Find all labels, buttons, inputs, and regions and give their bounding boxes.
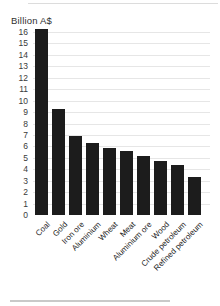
bottom-scan-rule xyxy=(10,300,170,302)
y-tick-label: 12 xyxy=(6,73,28,83)
bar-label: Coal xyxy=(34,220,52,238)
y-tick-label: 0 xyxy=(6,210,28,220)
grid-line xyxy=(33,66,210,67)
grid-line xyxy=(33,89,210,90)
y-tick-label: 2 xyxy=(6,187,28,197)
y-tick-label: 13 xyxy=(6,61,28,71)
y-tick-label: 14 xyxy=(6,50,28,60)
bar xyxy=(69,136,82,215)
y-tick-label: 11 xyxy=(6,84,28,94)
bar xyxy=(154,161,167,215)
grid-line xyxy=(33,55,210,56)
y-tick-label: 15 xyxy=(6,38,28,48)
y-tick-label: 7 xyxy=(6,130,28,140)
bar xyxy=(103,148,116,215)
bar xyxy=(52,109,65,215)
grid-line xyxy=(33,32,210,33)
y-tick-label: 4 xyxy=(6,164,28,174)
bar xyxy=(120,151,133,215)
bar xyxy=(35,29,48,215)
grid-line xyxy=(33,43,210,44)
grid-line xyxy=(33,101,210,102)
y-tick-label: 10 xyxy=(6,96,28,106)
y-tick-label: 5 xyxy=(6,153,28,163)
bar xyxy=(171,165,184,215)
y-tick-label: 9 xyxy=(6,107,28,117)
y-tick-label: 3 xyxy=(6,176,28,186)
grid-line xyxy=(33,78,210,79)
y-tick-label: 16 xyxy=(6,27,28,37)
bar xyxy=(137,156,150,215)
bar xyxy=(188,177,201,215)
y-tick-label: 1 xyxy=(6,199,28,209)
y-tick-label: 8 xyxy=(6,119,28,129)
scanned-chart-page: Billion A$ 012345678910111213141516CoalG… xyxy=(0,0,220,306)
bar-chart: 012345678910111213141516CoalGoldIron ore… xyxy=(0,0,220,306)
bar xyxy=(86,143,99,215)
y-tick-label: 6 xyxy=(6,141,28,151)
